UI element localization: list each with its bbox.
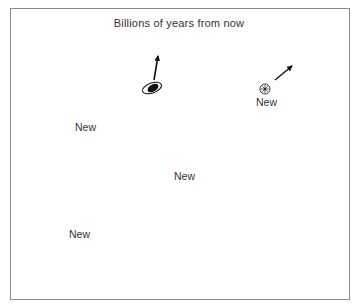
spiral-galaxy-icon	[141, 56, 163, 96]
new-label: New	[174, 170, 195, 182]
new-label: New	[256, 96, 277, 108]
new-galaxy-icon	[260, 66, 292, 94]
diagram-canvas	[0, 0, 358, 306]
new-label: New	[75, 121, 96, 133]
arrow-up-right-icon	[154, 56, 158, 80]
arrow-up-right-icon	[275, 66, 292, 80]
new-label: New	[69, 228, 90, 240]
